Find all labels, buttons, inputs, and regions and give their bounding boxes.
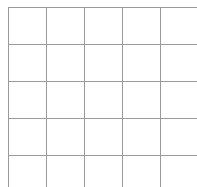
grid-vertical-line — [84, 7, 85, 187]
grid-horizontal-line — [8, 155, 197, 156]
grid-vertical-line — [122, 7, 123, 187]
grid-horizontal-line — [8, 44, 197, 45]
grid-horizontal-line — [8, 118, 197, 119]
grid-horizontal-line — [8, 7, 197, 8]
grid-vertical-line — [46, 7, 47, 187]
grid-vertical-line — [160, 7, 161, 187]
grid-horizontal-line — [8, 81, 197, 82]
empty-grid — [0, 0, 197, 187]
grid-vertical-line — [8, 7, 9, 187]
